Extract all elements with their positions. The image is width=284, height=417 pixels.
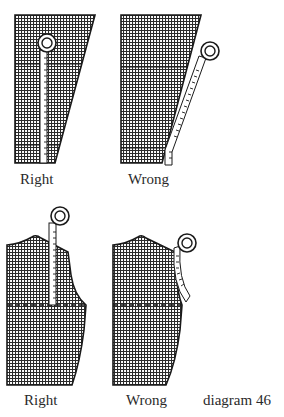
- label-bottom-wrong-example: Wrong: [126, 392, 167, 409]
- label-top-wrong-example: Wrong: [128, 171, 169, 188]
- skirt-panel-wrong: [121, 15, 219, 165]
- label-bottom-right-example: Right: [24, 392, 57, 409]
- bodice-panel-wrong: [113, 234, 196, 385]
- bodice-panel-right: [7, 207, 86, 385]
- diagram-canvas: [0, 0, 284, 417]
- skirt-panel-right: [15, 15, 95, 163]
- label-top-right-example: Right: [20, 171, 53, 188]
- diagram-caption: diagram 46: [203, 392, 271, 409]
